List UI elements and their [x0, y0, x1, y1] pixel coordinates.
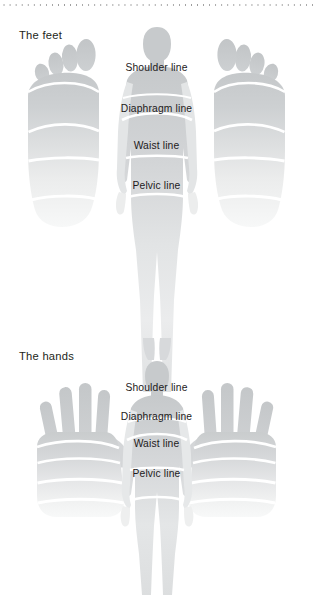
feet-label-shoulder-line: Shoulder line: [0, 62, 313, 73]
feet-label-waist-line: Waist line: [0, 140, 313, 151]
body-silhouette-feet: [116, 27, 198, 392]
hands-label-waist-line: Waist line: [0, 438, 313, 449]
feet-label-pelvic-line: Pelvic line: [0, 180, 313, 191]
reflexology-chart-page: The feet The hands Shoulder line Diaphra…: [0, 0, 313, 595]
right-hand-palm: [184, 383, 276, 517]
left-hand-palm: [37, 383, 129, 517]
body-silhouette-hands: [121, 338, 194, 595]
hands-label-pelvic-line: Pelvic line: [0, 468, 313, 479]
artwork-layer: [0, 0, 313, 595]
hands-label-shoulder-line: Shoulder line: [0, 382, 313, 393]
hands-label-diaphragm-line: Diaphragm line: [0, 411, 313, 422]
feet-label-diaphragm-line: Diaphragm line: [0, 103, 313, 114]
